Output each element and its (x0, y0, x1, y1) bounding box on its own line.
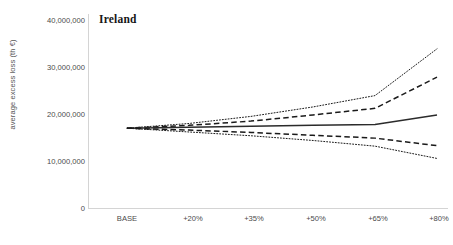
x-axis-tick-label: +80% (404, 214, 453, 223)
chart-container: average excess loss (th €) 40,000,000 30… (0, 0, 453, 245)
x-axis-tick-label: BASE (92, 214, 162, 223)
x-axis-tick-label: +50% (281, 214, 351, 223)
series-line (127, 128, 437, 158)
series-line (127, 77, 437, 128)
series-line (127, 49, 437, 128)
x-axis-tick-label: +65% (343, 214, 413, 223)
series-lines (0, 0, 453, 245)
x-axis-tick-label: +35% (219, 214, 289, 223)
x-axis-tick-label: +20% (158, 214, 228, 223)
